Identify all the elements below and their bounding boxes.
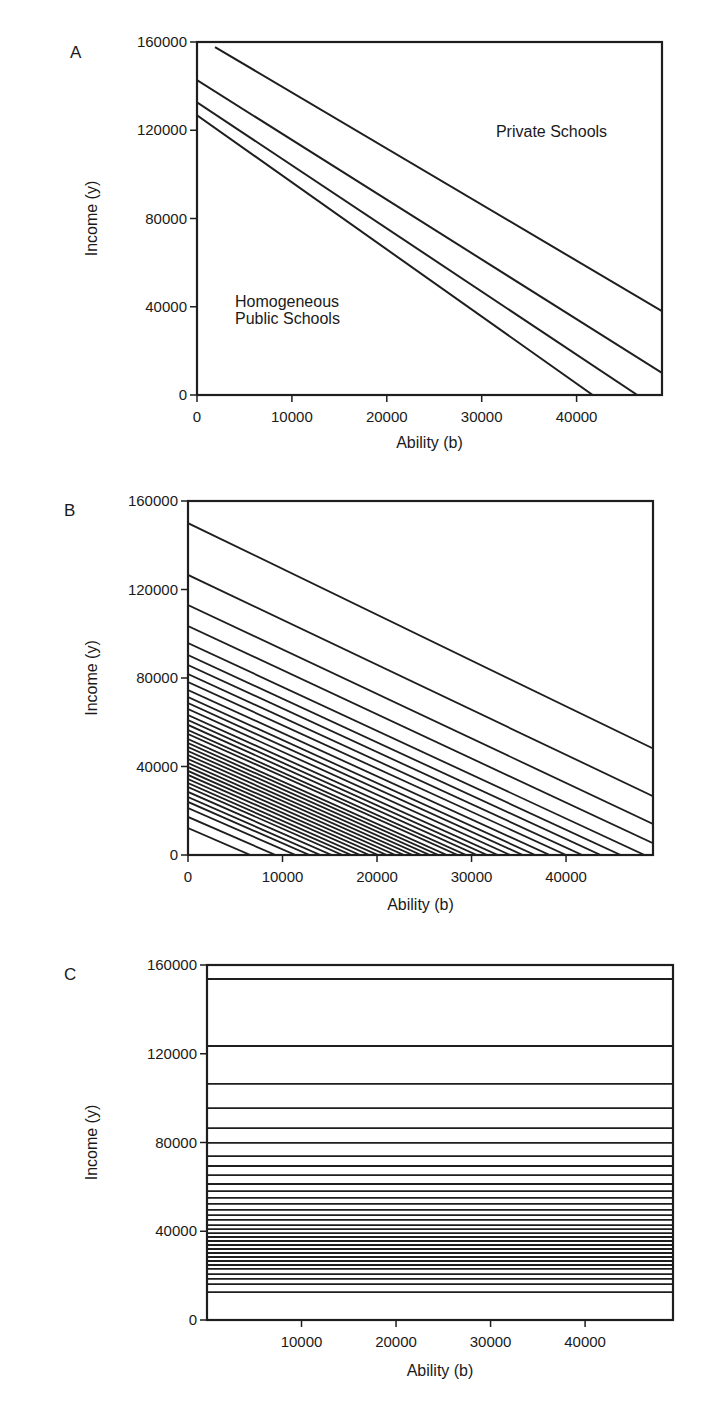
x-tick-label: 30000: [451, 868, 493, 885]
data-line: [188, 739, 653, 947]
panel-b: 0400008000012000016000001000020000300004…: [64, 492, 653, 1029]
x-axis-title: Ability (b): [407, 1362, 474, 1379]
annotation-label: Private Schools: [496, 123, 607, 140]
data-line: [188, 763, 653, 969]
y-tick-label: 120000: [147, 1045, 197, 1062]
y-tick-label: 160000: [147, 956, 197, 973]
data-line: [188, 828, 653, 1029]
x-tick-label: 40000: [564, 1333, 606, 1350]
y-tick-label: 40000: [136, 758, 178, 775]
x-tick-label: 10000: [271, 408, 313, 425]
figure-three-panel-income-ability: 0400008000012000016000001000020000300004…: [0, 0, 711, 1412]
panel-a: 0400008000012000016000001000020000300004…: [70, 33, 662, 451]
y-tick-label: 160000: [128, 492, 178, 509]
x-tick-label: 30000: [461, 408, 503, 425]
x-axis-title: Ability (b): [396, 434, 463, 451]
panel-c: 0400008000012000016000010000200003000040…: [64, 956, 673, 1379]
panel-letter: C: [64, 965, 76, 984]
y-tick-label: 80000: [145, 210, 187, 227]
y-tick-label: 0: [189, 1311, 197, 1328]
y-tick-label: 80000: [136, 669, 178, 686]
series-lines: [188, 523, 653, 1029]
x-tick-label: 0: [184, 868, 192, 885]
x-tick-label: 10000: [281, 1333, 323, 1350]
y-tick-label: 160000: [137, 33, 187, 50]
data-line: [197, 102, 637, 395]
annotation-label: Homogeneous: [235, 293, 339, 310]
x-tick-label: 20000: [375, 1333, 417, 1350]
y-tick-label: 0: [170, 846, 178, 863]
panel-letter: A: [70, 43, 82, 62]
x-tick-label: 20000: [356, 868, 398, 885]
y-tick-label: 40000: [155, 1222, 197, 1239]
x-tick-label: 20000: [366, 408, 408, 425]
y-tick-label: 120000: [128, 581, 178, 598]
y-tick-label: 80000: [155, 1134, 197, 1151]
y-tick-label: 120000: [137, 121, 187, 138]
y-axis-title: Income (y): [83, 181, 100, 257]
x-tick-label: 40000: [556, 408, 598, 425]
x-axis-title: Ability (b): [387, 896, 454, 913]
data-line: [215, 47, 662, 311]
data-line: [197, 115, 593, 395]
series-lines: [197, 47, 662, 395]
x-tick-label: 10000: [262, 868, 304, 885]
panel-letter: B: [64, 501, 75, 520]
x-tick-label: 40000: [545, 868, 587, 885]
annotation-label: Public Schools: [235, 310, 340, 327]
series-lines: [207, 965, 673, 1292]
data-line: [188, 715, 653, 925]
y-tick-label: 40000: [145, 298, 187, 315]
data-line: [188, 759, 653, 966]
data-line: [188, 747, 653, 955]
x-tick-label: 0: [193, 408, 201, 425]
x-tick-label: 30000: [470, 1333, 512, 1350]
y-axis-title: Income (y): [83, 640, 100, 716]
plot-frame: [197, 42, 662, 395]
data-line: [188, 755, 653, 962]
y-axis-title: Income (y): [83, 1105, 100, 1181]
y-tick-label: 0: [179, 386, 187, 403]
data-line: [188, 787, 653, 992]
